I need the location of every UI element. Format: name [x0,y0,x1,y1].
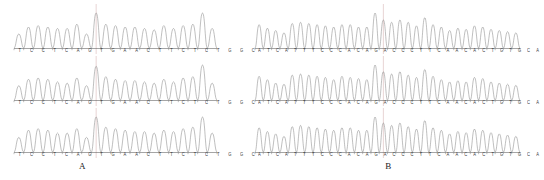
base-call: C [390,153,399,158]
base-call: G [497,153,506,158]
base-call: A [119,153,131,158]
base-call: G [515,49,524,54]
base-call: T [14,153,26,158]
base-call-sequence: TCCTCAGTGAACTTCTCTGGC [0,153,287,157]
base-call: A [443,101,452,106]
peak-curve [14,117,217,152]
base-call: T [291,101,300,106]
base-call: A [345,153,354,158]
base-call: C [273,153,282,158]
peak-curve [14,65,217,100]
base-call: T [300,153,309,158]
base-call: T [96,101,108,106]
base-call: T [264,153,273,158]
base-call: C [142,153,154,158]
trace-row [245,116,532,152]
base-call: T [309,153,318,158]
base-call: A [282,49,291,54]
base-call: G [107,101,119,106]
base-call: A [470,101,479,106]
base-call: G [84,153,96,158]
base-call: A [119,49,131,54]
base-call: T [488,153,497,158]
base-call: C [407,153,416,158]
base-call-sequence: TCCTCAGTGAACTTCTCTGGC [0,101,287,105]
base-call: C [201,101,213,106]
base-call: A [72,101,84,106]
base-call: G [372,49,381,54]
base-call: G [515,101,524,106]
base-call: A [282,101,291,106]
base-call: T [506,101,515,106]
base-call: G [107,49,119,54]
electropherogram-trace [245,116,532,152]
base-call: C [524,101,533,106]
base-call: C [318,153,327,158]
base-call: A [452,49,461,54]
peak-curve [255,13,520,48]
base-call: T [309,49,318,54]
base-call-sequence: TCCTCAGTGAACTTCTCTGGC [0,49,287,53]
base-call: A [533,49,542,54]
base-call: A [470,49,479,54]
base-call: A [345,101,354,106]
base-call: G [224,153,236,158]
base-call: T [166,153,178,158]
base-call: C [524,49,533,54]
base-call: T [425,101,434,106]
base-call: C [177,101,189,106]
base-call-sequence: ATCATTTCCCACAGACCCTTCAACACTGTGCA [245,49,544,53]
base-call: T [166,49,178,54]
base-call: C [142,101,154,106]
base-call: T [488,49,497,54]
base-call: T [309,101,318,106]
base-call: A [363,101,372,106]
base-call: C [390,49,399,54]
base-call: T [506,153,515,158]
base-call: C [273,101,282,106]
base-call: C [354,101,363,106]
base-call: G [497,101,506,106]
base-call: C [26,101,38,106]
chromatogram-panel-a: TCCTCAGTGAACTTCTCTGGCTCCTCAGTGAACTTCTCTG… [0,0,245,180]
base-call: G [107,153,119,158]
base-call: A [72,153,84,158]
chromatogram-panel-b: ATCATTTCCCACAGACCCTTCAACACTGTGCAATCATTTC… [245,0,532,180]
base-call: T [189,101,201,106]
base-call: C [479,153,488,158]
electropherogram-trace [0,116,245,152]
base-call: T [416,153,425,158]
base-call: C [336,153,345,158]
base-call: T [212,49,224,54]
base-call: T [154,49,166,54]
base-call: C [524,153,533,158]
base-call: A [72,49,84,54]
base-call: A [452,153,461,158]
base-call: C [434,153,443,158]
base-call: A [381,49,390,54]
base-call: T [291,49,300,54]
base-call: T [264,49,273,54]
base-call: A [443,49,452,54]
base-call: C [318,101,327,106]
base-call: C [37,101,49,106]
base-call: C [461,101,470,106]
electropherogram-trace [245,12,532,48]
base-call: A [255,153,264,158]
base-call: C [327,49,336,54]
base-call: C [354,49,363,54]
base-call: A [452,101,461,106]
electropherogram-trace [245,64,532,100]
base-call: C [61,153,73,158]
base-call: A [131,49,143,54]
trace-row [245,12,532,48]
base-call: T [506,49,515,54]
base-call: A [443,153,452,158]
base-call: A [255,49,264,54]
base-call: T [425,49,434,54]
base-call: T [212,101,224,106]
base-call: T [154,153,166,158]
base-call: A [345,49,354,54]
electropherogram-trace [0,64,245,100]
trace-row [0,12,245,48]
